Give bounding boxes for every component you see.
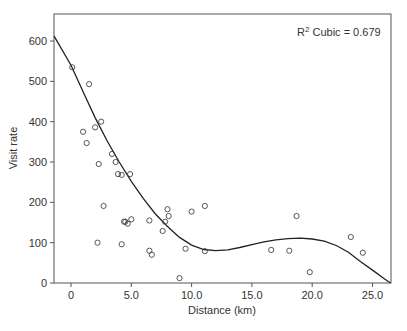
- data-point: [160, 228, 165, 233]
- y-tick-label: 600: [29, 35, 47, 47]
- x-tick-label: 25.0: [362, 289, 383, 301]
- y-tick-label: 300: [29, 156, 47, 168]
- data-point: [348, 234, 353, 239]
- data-point: [294, 213, 299, 218]
- data-points: [70, 65, 366, 281]
- r-squared-annotation: R2 Cubic = 0.679: [297, 25, 381, 38]
- data-point: [165, 207, 170, 212]
- data-point: [177, 276, 182, 281]
- data-point: [307, 270, 312, 275]
- data-point: [80, 129, 85, 134]
- x-tick-label: 5.0: [124, 289, 139, 301]
- data-point: [202, 203, 207, 208]
- data-point: [95, 240, 100, 245]
- data-point: [93, 125, 98, 130]
- data-point: [96, 161, 101, 166]
- data-point: [360, 250, 365, 255]
- data-point: [166, 213, 171, 218]
- y-tick-label: 500: [29, 75, 47, 87]
- x-tick-label: 0: [68, 289, 74, 301]
- scatter-chart: 0100200300400500600 05.010.015.020.025.0…: [0, 0, 407, 331]
- data-point: [84, 140, 89, 145]
- data-point: [287, 248, 292, 253]
- x-axis-label: Distance (km): [188, 304, 256, 316]
- data-point: [147, 218, 152, 223]
- data-point: [119, 242, 124, 247]
- x-tick-label: 15.0: [241, 289, 262, 301]
- y-tick-label: 200: [29, 196, 47, 208]
- data-point: [101, 203, 106, 208]
- plot-frame: [54, 14, 391, 283]
- cubic-fit-line: [54, 36, 391, 283]
- data-point: [113, 159, 118, 164]
- data-point: [115, 172, 120, 177]
- data-point: [129, 217, 134, 222]
- x-tick-label: 10.0: [181, 289, 202, 301]
- x-tick-label: 20.0: [301, 289, 322, 301]
- y-tick-label: 100: [29, 237, 47, 249]
- data-point: [183, 246, 188, 251]
- y-tick-label: 400: [29, 116, 47, 128]
- data-point: [86, 82, 91, 87]
- y-axis: 0100200300400500600: [29, 35, 54, 289]
- y-axis-label: Visit rate: [7, 127, 19, 170]
- data-point: [269, 247, 274, 252]
- data-point: [149, 252, 154, 257]
- data-point: [119, 172, 124, 177]
- data-point: [99, 119, 104, 124]
- data-point: [189, 209, 194, 214]
- data-point: [109, 151, 114, 156]
- data-point: [127, 172, 132, 177]
- y-tick-label: 0: [41, 277, 47, 289]
- x-axis: 05.010.015.020.025.0: [68, 283, 383, 301]
